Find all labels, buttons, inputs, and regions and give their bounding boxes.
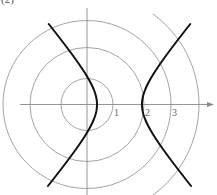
tick-label: 2: [145, 107, 150, 118]
figure-label: (2): [1, 0, 14, 5]
tick-label: 1: [114, 107, 119, 118]
hyperbola-polar-diagram: (2) 123: [0, 0, 217, 195]
x-axis-arrow-icon: [207, 102, 214, 107]
axes: [20, 8, 214, 195]
tick-labels: 123: [114, 107, 177, 118]
plot-area: 123: [0, 0, 217, 195]
hyperbola-curve: [48, 24, 191, 186]
tick-label: 3: [172, 107, 177, 118]
